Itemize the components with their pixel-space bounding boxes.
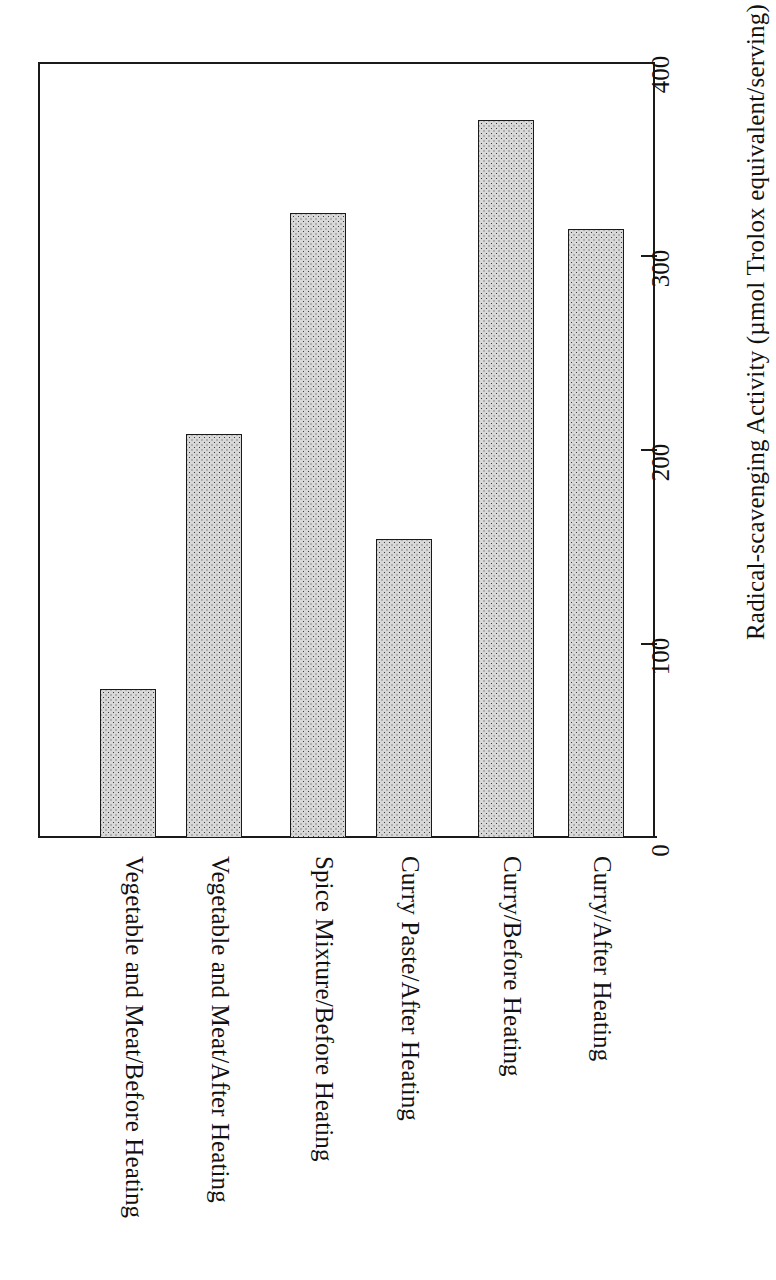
axis-tick-label: 200 [648, 433, 673, 493]
category-label: Curry/Before Heating [498, 856, 526, 1077]
category-label: Vegetable and Meat/Before Heating [120, 856, 148, 1218]
bar [568, 229, 624, 838]
value-axis-title: Radical-scavenging Activity (µmol Trolox… [742, 4, 770, 640]
chart-figure: 0100200300400 Radical-scavenging Activit… [0, 0, 776, 1280]
bar [376, 539, 432, 838]
category-label: Spice Mixture/Before Heating [310, 856, 338, 1162]
axis-tick-label: 100 [648, 627, 673, 687]
axis-tick-label: 400 [648, 45, 673, 105]
bar [478, 120, 534, 838]
bar [290, 213, 346, 838]
bar [186, 434, 242, 838]
bar [100, 689, 156, 838]
category-label: Vegetable and Meat/After Heating [206, 856, 234, 1203]
category-label: Curry Paste/After Heating [396, 856, 424, 1121]
bar-series [38, 62, 655, 838]
axis-tick-label: 300 [648, 239, 673, 299]
axis-tick-label: 0 [648, 821, 673, 881]
category-label: Curry/After Heating [588, 856, 616, 1061]
